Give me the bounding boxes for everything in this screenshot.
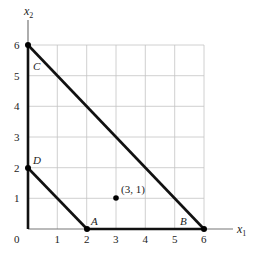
y-axis-label: x2 (23, 4, 33, 20)
vertex-A-label: A (90, 215, 98, 227)
vertex-A-dot (84, 226, 90, 232)
y-tick-3: 3 (14, 131, 20, 143)
y-tick-4: 4 (14, 100, 20, 112)
x-tick-2: 2 (84, 233, 90, 245)
vertex-D-dot (25, 165, 31, 171)
x-tick-4: 4 (143, 233, 149, 245)
vertex-B-dot (201, 226, 207, 232)
origin-label: 0 (14, 233, 20, 245)
vertex-D-label: D (32, 154, 41, 166)
feasible-region-diagram: C D A B (3, 1) 0 1 2 3 4 5 6 1 2 3 4 5 6… (0, 0, 255, 261)
x-tick-5: 5 (172, 233, 178, 245)
point-3-1-dot (113, 195, 119, 201)
vertex-C-dot (25, 42, 31, 48)
x-tick-3: 3 (113, 233, 119, 245)
x-axis-label: x1 (236, 222, 246, 238)
vertex-B-label: B (180, 215, 187, 227)
y-tick-2: 2 (14, 162, 20, 174)
y-tick-1: 1 (14, 192, 20, 204)
point-label: (3, 1) (121, 183, 145, 196)
x-tick-6: 6 (201, 233, 207, 245)
x-tick-1: 1 (55, 233, 61, 245)
vertex-C-label: C (33, 60, 41, 72)
y-tick-5: 5 (14, 70, 20, 82)
y-tick-6: 6 (14, 39, 20, 51)
